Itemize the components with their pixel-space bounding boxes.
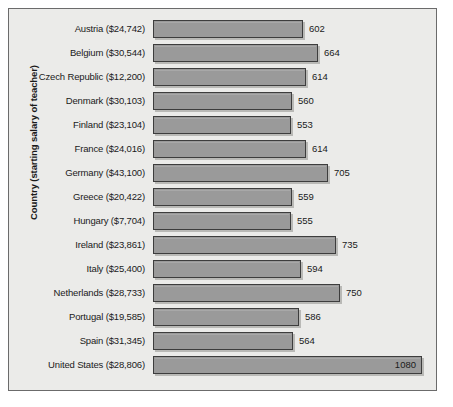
bar-row: Spain ($31,345)564	[9, 332, 438, 356]
bar	[153, 284, 340, 302]
bar-value-label: 1080	[392, 356, 416, 374]
bar-highlight	[155, 262, 299, 263]
bar-highlight	[155, 214, 289, 215]
bar-row: Czech Republic ($12,200)614	[9, 68, 438, 92]
bar-track: 559	[153, 188, 438, 208]
category-label: France ($24,016)	[9, 140, 145, 158]
category-label: Portugal ($19,585)	[9, 308, 145, 326]
bar-highlight	[155, 70, 304, 71]
bar-value-label: 750	[346, 284, 362, 302]
bar-track: 735	[153, 236, 438, 256]
bar-value-label: 614	[312, 68, 328, 86]
bar-highlight	[155, 358, 420, 359]
category-label: Spain ($31,345)	[9, 332, 145, 350]
bar-row: Italy ($25,400)594	[9, 260, 438, 284]
bar-highlight	[155, 310, 297, 311]
bar-highlight	[155, 22, 301, 23]
bar-track: 564	[153, 332, 438, 352]
bar-highlight	[155, 286, 338, 287]
bar	[153, 332, 293, 350]
bar-row: United States ($28,806)1080	[9, 356, 438, 380]
category-label: Hungary ($7,704)	[9, 212, 145, 230]
bar	[153, 116, 291, 134]
bar	[153, 92, 292, 110]
category-label: Greece ($20,422)	[9, 188, 145, 206]
bar-row: Belgium ($30,544)664	[9, 44, 438, 68]
bar-highlight	[155, 46, 316, 47]
bar-track: 750	[153, 284, 438, 304]
category-label: Austria ($24,742)	[9, 20, 145, 38]
bar-value-label: 555	[297, 212, 313, 230]
bar-value-label: 586	[305, 308, 321, 326]
bar-track: 664	[153, 44, 438, 64]
bar	[153, 44, 318, 62]
bar-chart-figure: Country (starting salary of teacher) Aus…	[8, 8, 437, 391]
bar-value-label: 735	[342, 236, 358, 254]
bar-highlight	[155, 142, 304, 143]
bar	[153, 164, 328, 182]
bar-highlight	[155, 238, 334, 239]
bar	[153, 212, 291, 230]
category-label: Italy ($25,400)	[9, 260, 145, 278]
bar	[153, 356, 422, 374]
bar	[153, 308, 299, 326]
bar-value-label: 559	[298, 188, 314, 206]
bar-value-label: 705	[334, 164, 350, 182]
category-label: Finland ($23,104)	[9, 116, 145, 134]
bar-value-label: 594	[307, 260, 323, 278]
bar-row: Ireland ($23,861)735	[9, 236, 438, 260]
category-label: Netherlands ($28,733)	[9, 284, 145, 302]
bar-value-label: 614	[312, 140, 328, 158]
bar-value-label: 602	[309, 20, 325, 38]
bar	[153, 140, 306, 158]
bar	[153, 260, 301, 278]
bar-row: Austria ($24,742)602	[9, 20, 438, 44]
bar-value-label: 560	[298, 92, 314, 110]
bar-row: Greece ($20,422)559	[9, 188, 438, 212]
category-label: Denmark ($30,103)	[9, 92, 145, 110]
category-label: Germany ($43,100)	[9, 164, 145, 182]
bar-row: Hungary ($7,704)555	[9, 212, 438, 236]
bar	[153, 188, 292, 206]
bar	[153, 68, 306, 86]
plot-area: Austria ($24,742)602Belgium ($30,544)664…	[9, 20, 438, 380]
bar	[153, 20, 303, 38]
bar-track: 553	[153, 116, 438, 136]
bar-track: 602	[153, 20, 438, 40]
category-label: Ireland ($23,861)	[9, 236, 145, 254]
category-label: United States ($28,806)	[9, 356, 145, 374]
bar-track: 1080	[153, 356, 438, 376]
bar-row: Germany ($43,100)705	[9, 164, 438, 188]
bar-highlight	[155, 190, 290, 191]
bar-track: 705	[153, 164, 438, 184]
bar-row: Finland ($23,104)553	[9, 116, 438, 140]
bar-track: 555	[153, 212, 438, 232]
category-label: Belgium ($30,544)	[9, 44, 145, 62]
bar-value-label: 553	[297, 116, 313, 134]
bar-highlight	[155, 166, 326, 167]
bar-row: Portugal ($19,585)586	[9, 308, 438, 332]
bar-track: 560	[153, 92, 438, 112]
bar-highlight	[155, 118, 289, 119]
bar-highlight	[155, 334, 291, 335]
bar-value-label: 564	[299, 332, 315, 350]
bar-row: France ($24,016)614	[9, 140, 438, 164]
bar-track: 614	[153, 140, 438, 160]
category-label: Czech Republic ($12,200)	[9, 68, 145, 86]
bar-track: 594	[153, 260, 438, 280]
bar-track: 614	[153, 68, 438, 88]
bar-row: Netherlands ($28,733)750	[9, 284, 438, 308]
bar-highlight	[155, 94, 290, 95]
bar-track: 586	[153, 308, 438, 328]
bar-row: Denmark ($30,103)560	[9, 92, 438, 116]
bar-value-label: 664	[324, 44, 340, 62]
bar	[153, 236, 336, 254]
